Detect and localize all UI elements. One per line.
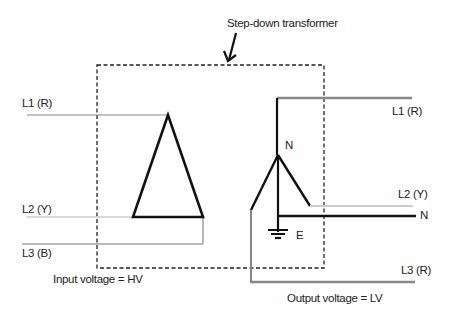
output-label-n: N xyxy=(420,210,428,222)
arrow-icon xyxy=(224,33,236,61)
output-label-l1: L1 (R) xyxy=(392,106,422,118)
delta-winding xyxy=(133,115,203,217)
output-label-l2: L2 (Y) xyxy=(398,189,428,201)
neutral-point-label: N xyxy=(285,140,293,152)
transformer-box xyxy=(97,65,324,268)
output-label-l3: L3 (R) xyxy=(401,265,431,277)
input-label-l3: L3 (B) xyxy=(22,248,52,260)
output-voltage-label: Output voltage = LV xyxy=(287,293,382,305)
star-winding xyxy=(251,155,310,232)
input-label-l2: L2 (Y) xyxy=(22,204,52,216)
input-label-l1: L1 (R) xyxy=(22,98,52,110)
input-voltage-label: Input voltage = HV xyxy=(53,274,143,286)
transformer-title: Step-down transformer xyxy=(227,18,338,30)
earth-label: E xyxy=(296,230,303,242)
